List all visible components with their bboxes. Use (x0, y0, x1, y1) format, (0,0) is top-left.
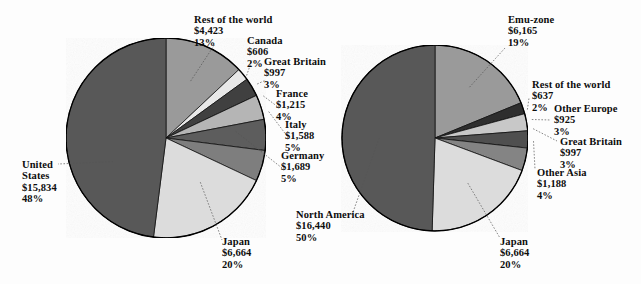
label-title: Emu-zone (508, 14, 554, 25)
label-value: $997 (560, 147, 622, 158)
label-title: Great Britain (264, 56, 326, 67)
label-left-france: France $1,215 4% (276, 88, 308, 122)
label-percent: 19% (508, 37, 554, 48)
label-title: Canada (247, 35, 283, 46)
label-title-line1: United (22, 159, 57, 170)
label-right-emu-zone: Emu-zone $6,165 19% (508, 14, 554, 48)
label-left-germany: Germany $1,689 5% (281, 150, 324, 184)
label-title-line2: States (22, 170, 57, 181)
label-percent: 20% (222, 259, 251, 270)
label-title: Great Britain (560, 136, 622, 147)
label-title: Other Asia (537, 167, 587, 178)
label-title: Japan (222, 236, 251, 247)
label-value: $997 (264, 67, 326, 78)
label-value: $6,165 (508, 25, 554, 36)
label-value: $925 (554, 114, 618, 125)
label-right-other-asia: Other Asia $1,188 4% (537, 167, 587, 201)
pie-slice-north-america[interactable] (342, 45, 435, 231)
label-value: $1,689 (281, 161, 324, 172)
pie-slice-united-states[interactable] (66, 38, 166, 237)
label-value: $1,215 (276, 99, 308, 110)
label-percent: 4% (537, 190, 587, 201)
label-value: $6,664 (500, 247, 529, 258)
label-value: $1,188 (537, 178, 587, 189)
label-title: Germany (281, 150, 324, 161)
label-title: Other Europe (554, 103, 618, 114)
label-value: $6,664 (222, 247, 251, 258)
label-title: Italy (285, 119, 314, 130)
label-title: Rest of the world (194, 14, 272, 25)
label-percent: 20% (500, 259, 529, 270)
label-value: $1,588 (285, 130, 314, 141)
label-percent: 50% (296, 232, 365, 243)
left-pie (66, 38, 266, 238)
label-right-japan: Japan $6,664 20% (500, 236, 529, 270)
label-left-united-states: United States $15,834 48% (22, 159, 57, 205)
right-pie (342, 45, 528, 231)
label-title: Rest of the world (532, 79, 610, 90)
label-left-japan: Japan $6,664 20% (222, 236, 251, 270)
leader-line (534, 141, 536, 169)
label-value: $15,834 (22, 182, 57, 193)
label-right-north-america: North America $16,440 50% (296, 209, 365, 243)
label-right-other-europe: Other Europe $925 3% (554, 103, 618, 137)
label-right-great-britain: Great Britain $997 3% (560, 136, 622, 170)
label-left-italy: Italy $1,588 5% (285, 119, 314, 153)
label-title: North America (296, 209, 365, 220)
label-title: France (276, 88, 308, 99)
label-percent: 48% (22, 193, 57, 204)
label-left-great-britain: Great Britain $997 3% (264, 56, 326, 90)
label-title: Japan (500, 236, 529, 247)
leader-line (527, 98, 529, 110)
label-value: $16,440 (296, 220, 365, 231)
leader-line (532, 120, 551, 121)
label-percent: 5% (281, 173, 324, 184)
label-value: $637 (532, 90, 610, 101)
